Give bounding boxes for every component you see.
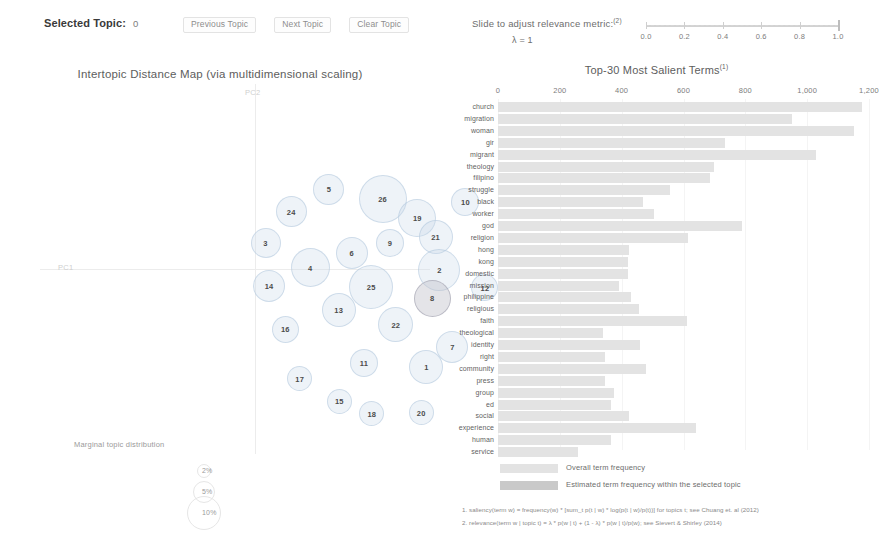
- relevance-slider-handle[interactable]: [838, 20, 840, 31]
- bar-row[interactable]: migration: [440, 114, 873, 126]
- topic-bubble-17[interactable]: 17: [287, 366, 312, 391]
- topic-bubble-25[interactable]: 25: [349, 265, 393, 309]
- topic-bubble-14[interactable]: 14: [253, 270, 285, 302]
- bar-row[interactable]: black: [440, 197, 873, 209]
- topic-bubble-3[interactable]: 3: [251, 228, 281, 258]
- overall-frequency-bar: [498, 221, 742, 231]
- term-label[interactable]: press: [476, 377, 494, 384]
- topic-bubble-11[interactable]: 11: [350, 349, 378, 377]
- bar-row[interactable]: experience: [440, 423, 873, 435]
- term-label[interactable]: migration: [464, 115, 494, 122]
- term-label[interactable]: social: [476, 412, 495, 419]
- slider-tick-label-0.8: 0.8: [794, 32, 805, 41]
- bar-row[interactable]: human: [440, 435, 873, 447]
- term-label[interactable]: community: [459, 365, 494, 372]
- previous-topic-button[interactable]: Previous Topic: [183, 17, 256, 33]
- slider-tick-label-1.0: 1.0: [832, 32, 843, 41]
- term-label[interactable]: religion: [471, 234, 494, 241]
- topic-bubble-15[interactable]: 15: [327, 389, 352, 414]
- bar-row[interactable]: filipino: [440, 173, 873, 185]
- topic-bubble-9[interactable]: 9: [376, 229, 404, 257]
- bar-row[interactable]: community: [440, 364, 873, 376]
- topic-bubble-4[interactable]: 4: [291, 248, 330, 287]
- bar-row[interactable]: theology: [440, 162, 873, 174]
- bar-row[interactable]: press: [440, 376, 873, 388]
- term-label[interactable]: group: [476, 389, 494, 396]
- bar-row[interactable]: religion: [440, 233, 873, 245]
- term-label[interactable]: theology: [467, 163, 494, 170]
- bar-row[interactable]: migrant: [440, 150, 873, 162]
- bar-row[interactable]: group: [440, 388, 873, 400]
- next-topic-button[interactable]: Next Topic: [274, 17, 331, 33]
- selected-topic-value[interactable]: 0: [133, 18, 143, 29]
- bar-row[interactable]: kong: [440, 257, 873, 269]
- bar-row[interactable]: service: [440, 447, 873, 459]
- bar-row[interactable]: ed: [440, 400, 873, 412]
- bar-row[interactable]: hong: [440, 245, 873, 257]
- relevance-slider-track[interactable]: [646, 25, 838, 27]
- bar-row[interactable]: gir: [440, 138, 873, 150]
- term-label[interactable]: woman: [471, 127, 494, 134]
- topic-bubble-16[interactable]: 16: [272, 316, 299, 343]
- term-label[interactable]: god: [482, 222, 494, 229]
- topic-bubble-22[interactable]: 22: [378, 307, 413, 342]
- term-label[interactable]: faith: [480, 317, 494, 324]
- bar-row[interactable]: woman: [440, 126, 873, 138]
- term-label[interactable]: filipino: [473, 174, 494, 181]
- topic-bubble-label: 26: [378, 195, 387, 204]
- term-label[interactable]: migrant: [470, 151, 494, 158]
- intertopic-map-panel: Selected Topic: 0 Previous Topic Next To…: [0, 0, 440, 545]
- topic-bubble-13[interactable]: 13: [322, 293, 356, 327]
- term-label[interactable]: human: [472, 436, 494, 443]
- term-label[interactable]: ed: [486, 401, 494, 408]
- overall-frequency-bar: [498, 138, 725, 148]
- term-label[interactable]: right: [480, 353, 494, 360]
- relevance-slider[interactable]: 0.00.20.40.60.81.0: [636, 18, 858, 52]
- topic-bubble-24[interactable]: 24: [276, 196, 307, 227]
- topic-bubble-20[interactable]: 20: [409, 400, 434, 425]
- term-label[interactable]: experience: [459, 424, 494, 431]
- bar-row[interactable]: struggle: [440, 185, 873, 197]
- clear-topic-button[interactable]: Clear Topic: [349, 17, 409, 33]
- slider-tick-0.0: [646, 22, 647, 29]
- term-label[interactable]: theological: [459, 329, 494, 336]
- term-label[interactable]: philippine: [463, 293, 494, 300]
- term-label[interactable]: hong: [478, 246, 494, 253]
- bar-row[interactable]: church: [440, 102, 873, 114]
- term-label[interactable]: domestic: [465, 270, 494, 277]
- topic-bubble-label: 1: [424, 362, 428, 371]
- marginal-distribution-title: Marginal topic distribution: [74, 440, 164, 449]
- term-label[interactable]: identity: [471, 341, 494, 348]
- topic-bubble-label: 13: [334, 306, 343, 315]
- bar-row[interactable]: faith: [440, 316, 873, 328]
- term-label[interactable]: worker: [472, 210, 494, 217]
- bar-row[interactable]: right: [440, 352, 873, 364]
- slider-tick-label-0.2: 0.2: [679, 32, 690, 41]
- bar-row[interactable]: philippine: [440, 292, 873, 304]
- bar-row[interactable]: mission: [440, 281, 873, 293]
- term-label[interactable]: struggle: [468, 186, 494, 193]
- term-label[interactable]: gir: [486, 139, 494, 146]
- topic-bubble-5[interactable]: 5: [313, 174, 344, 205]
- bar-row[interactable]: theological: [440, 328, 873, 340]
- intertopic-scatter-plot[interactable]: PC1 PC2 26524101939216421425128132216711…: [40, 84, 430, 454]
- topic-bubble-label: 8: [430, 294, 434, 303]
- term-label[interactable]: mission: [470, 282, 494, 289]
- bar-row[interactable]: religious: [440, 304, 873, 316]
- bar-row[interactable]: god: [440, 221, 873, 233]
- term-label[interactable]: black: [477, 198, 494, 205]
- term-label[interactable]: religious: [467, 305, 494, 312]
- topic-bubble-18[interactable]: 18: [359, 401, 384, 426]
- topic-frequency-label: Estimated term frequency within the sele…: [566, 480, 741, 489]
- bar-row[interactable]: social: [440, 411, 873, 423]
- bar-row[interactable]: identity: [440, 340, 873, 352]
- topic-bubble-6[interactable]: 6: [336, 237, 368, 269]
- topic-bubble-1[interactable]: 1: [409, 350, 443, 384]
- overall-frequency-bar: [498, 150, 816, 160]
- term-label[interactable]: church: [472, 103, 494, 110]
- bar-row[interactable]: worker: [440, 209, 873, 221]
- bar-row[interactable]: domestic: [440, 269, 873, 281]
- overall-frequency-bar: [498, 328, 603, 338]
- term-label[interactable]: kong: [478, 258, 494, 265]
- term-label[interactable]: service: [471, 448, 494, 455]
